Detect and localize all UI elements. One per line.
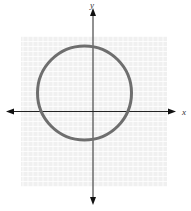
y-axis-label: y bbox=[89, 0, 94, 10]
x-axis-label: x bbox=[181, 107, 186, 117]
coordinate-plane: x y bbox=[0, 0, 191, 211]
x-axis-arrow-left-icon bbox=[6, 109, 14, 115]
x-axis-arrow-right-icon bbox=[168, 109, 176, 115]
y-axis-arrow-down-icon bbox=[90, 197, 96, 205]
